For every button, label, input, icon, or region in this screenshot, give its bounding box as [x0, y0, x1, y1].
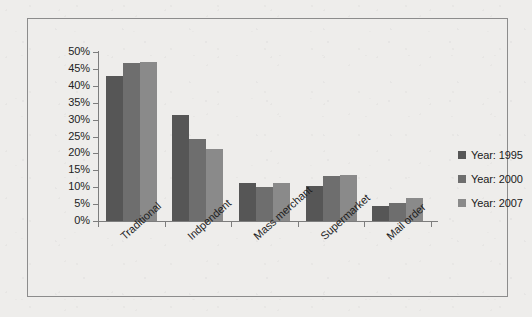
x-axis-tick-mark	[98, 222, 99, 227]
legend-item-label: Year: 1995	[471, 149, 523, 161]
bar-group	[372, 52, 423, 221]
legend-color-swatch	[458, 175, 466, 183]
x-axis-tick-mark	[431, 222, 432, 227]
bar-group	[306, 52, 357, 221]
x-axis-tick-mark	[298, 222, 299, 227]
bar-group	[239, 52, 290, 221]
bar[interactable]	[123, 63, 140, 221]
legend-item-label: Year: 2000	[471, 173, 523, 185]
y-axis-tick-label: 10%	[50, 181, 90, 192]
bar-group	[106, 52, 157, 221]
chart-page: 50%45%40%35%30%25%20%15%10%5%0% Traditio…	[0, 0, 532, 317]
y-axis-tick-label: 45%	[50, 63, 90, 74]
y-axis-tick-label: 20%	[50, 147, 90, 158]
y-axis-tick-label: 15%	[50, 164, 90, 175]
y-axis-tick-label: 50%	[50, 46, 90, 57]
y-axis-tick-label: 35%	[50, 97, 90, 108]
y-axis-tick-label: 30%	[50, 114, 90, 125]
legend-item[interactable]: Year: 2000	[458, 173, 523, 185]
y-axis-tick-label: 40%	[50, 80, 90, 91]
bar[interactable]	[189, 139, 206, 221]
bar[interactable]	[140, 62, 157, 221]
y-axis-tick-label: 0%	[50, 215, 90, 226]
y-axis-tick-label: 25%	[50, 131, 90, 142]
bar[interactable]	[372, 206, 389, 221]
chart-frame: 50%45%40%35%30%25%20%15%10%5%0% Traditio…	[27, 18, 508, 297]
chart-legend: Year: 1995Year: 2000Year: 2007	[458, 149, 523, 209]
x-axis-tick-mark	[165, 222, 166, 227]
legend-color-swatch	[458, 199, 466, 207]
bar-group	[172, 52, 223, 221]
bar[interactable]	[172, 115, 189, 221]
plot-area	[98, 52, 431, 221]
bar[interactable]	[239, 183, 256, 221]
legend-color-swatch	[458, 151, 466, 159]
x-axis-tick-mark	[364, 222, 365, 227]
bar[interactable]	[106, 76, 123, 221]
legend-item-label: Year: 2007	[471, 197, 523, 209]
legend-item[interactable]: Year: 2007	[458, 197, 523, 209]
legend-item[interactable]: Year: 1995	[458, 149, 523, 161]
y-axis-tick-label: 5%	[50, 198, 90, 209]
x-axis-tick-mark	[231, 222, 232, 227]
